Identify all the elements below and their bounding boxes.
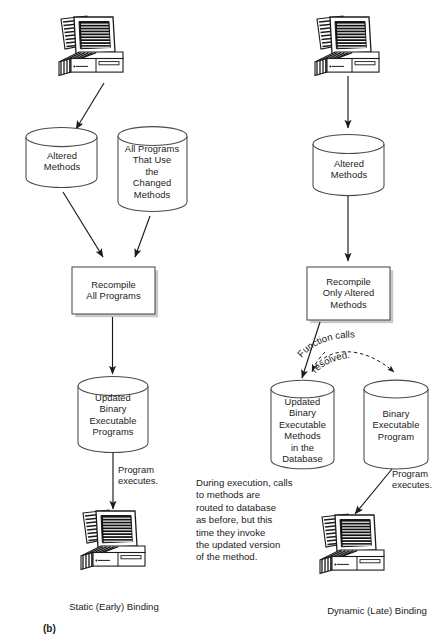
dynamic-cylinder-altered-methods-label: Altered Methods (313, 158, 385, 181)
static-target-computer-icon (81, 510, 145, 570)
static-cylinder-all-programs-label: All Programs That Use the Changed Method… (117, 143, 187, 200)
dynamic-source-computer-icon (315, 16, 379, 76)
dynamic-dashed-arc-function-calls-right (312, 352, 394, 372)
dynamic-panel-caption: Dynamic (Late) Binding (292, 605, 445, 616)
static-cylinder-updated-binary-label: Updated Binary Executable Programs (78, 392, 148, 438)
figure-canvas: Altered Methods All Programs That Use th… (0, 0, 445, 640)
dynamic-execution-note: During execution, calls to methods are r… (196, 477, 320, 564)
dynamic-dashed-arc-function-calls-left (312, 352, 325, 371)
static-arrow-allprograms-to-recompile (135, 216, 150, 257)
dynamic-cylinder-updated-methods-db-label: Updated Binary Executable Methods in the… (268, 396, 337, 464)
figure-part-label: (b) (43, 623, 56, 634)
static-cylinder-altered-methods-label: Altered Methods (26, 150, 98, 173)
dynamic-arrow-binary-to-computer (355, 469, 392, 514)
static-edge-label-program-executes: Program executes. (118, 464, 188, 487)
dynamic-box-recompile-label: Recompile Only Altered Methods (307, 276, 390, 310)
static-panel-caption: Static (Early) Binding (34, 601, 194, 612)
static-source-computer-icon (59, 16, 123, 76)
dynamic-cylinder-binary-exec-program-label: Binary Executable Program (362, 408, 430, 442)
dynamic-arrow-recompile-to-updated-methods (302, 322, 320, 378)
static-arrow-computer-to-altered (76, 83, 104, 129)
static-arrow-altered-to-recompile (63, 192, 103, 257)
static-box-recompile-label: Recompile All Programs (72, 279, 155, 302)
dynamic-target-computer-icon (320, 514, 384, 574)
dynamic-edge-label-program-executes: Program executes. (392, 468, 445, 491)
